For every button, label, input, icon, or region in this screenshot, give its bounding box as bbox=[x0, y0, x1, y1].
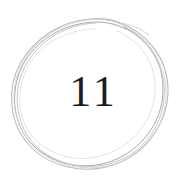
number-badge: 11 bbox=[0, 0, 184, 183]
badge-number: 11 bbox=[66, 70, 117, 114]
badge-number-container: 11 bbox=[0, 0, 184, 183]
